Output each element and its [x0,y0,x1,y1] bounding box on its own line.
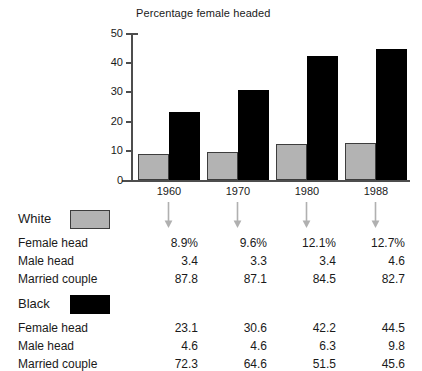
y-tick-40 [126,62,133,64]
y-tick-10 [126,150,133,152]
x-axis-label-1960: 1960 [139,185,199,197]
x-axis-label-1988: 1988 [346,185,406,197]
data-table: White Female head 8.9% 9.6% 12.1% 12.7% … [0,200,422,366]
row-label-white-married-couple: Married couple [18,273,97,286]
cell-black-married-couple-1980: 51.5 [278,358,336,371]
legend-swatch-white [70,210,110,229]
bar-black-1970[interactable] [238,90,269,180]
bar-white-1970[interactable] [207,152,238,180]
cell-black-male-head-1970: 4.6 [209,340,267,353]
chart-region: Percentage female headed 50 40 30 20 10 … [0,0,422,200]
cell-white-female-head-1980: 12.1% [278,237,336,250]
cell-black-female-head-1970: 30.6 [209,322,267,335]
cell-white-male-head-1960: 3.4 [140,255,198,268]
bar-white-1988[interactable] [345,143,376,180]
y-axis-label-20: 20 [99,116,123,127]
cell-white-male-head-1980: 3.4 [278,255,336,268]
y-tick-0 [126,180,133,182]
x-axis-label-1970: 1970 [208,185,268,197]
plot-area [133,33,410,180]
cell-white-married-couple-1980: 84.5 [278,273,336,286]
cell-black-female-head-1988: 44.5 [347,322,405,335]
x-axis-label-1980: 1980 [277,185,337,197]
cell-white-married-couple-1970: 87.1 [209,273,267,286]
cell-white-male-head-1988: 4.6 [347,255,405,268]
y-axis-label-40: 40 [99,57,123,68]
y-tick-30 [126,91,133,93]
row-label-white-female-head: Female head [18,237,88,250]
cell-black-married-couple-1970: 64.6 [209,358,267,371]
y-axis-label-0: 0 [99,175,123,186]
cell-black-male-head-1980: 6.3 [278,340,336,353]
bar-white-1980[interactable] [276,144,307,180]
cell-white-female-head-1970: 9.6% [209,237,267,250]
bar-black-1960[interactable] [169,112,200,180]
cell-white-male-head-1970: 3.3 [209,255,267,268]
y-tick-50 [126,33,133,35]
cell-white-female-head-1988: 12.7% [347,237,405,250]
bar-white-1960[interactable] [138,154,169,180]
cell-white-female-head-1960: 8.9% [140,237,198,250]
bar-black-1980[interactable] [307,56,338,180]
cell-black-married-couple-1960: 72.3 [140,358,198,371]
cell-black-male-head-1960: 4.6 [140,340,198,353]
cell-black-married-couple-1988: 45.6 [347,358,405,371]
row-label-black-married-couple: Married couple [18,358,97,371]
cell-white-married-couple-1988: 82.7 [347,273,405,286]
chart-title: Percentage female headed [136,7,271,19]
row-label-black-male-head: Male head [18,340,74,353]
row-label-white-male-head: Male head [18,255,74,268]
y-axis-label-10: 10 [99,145,123,156]
cell-white-married-couple-1960: 87.8 [140,273,198,286]
x-axis-line [122,180,410,182]
group-header-black: Black [18,297,50,311]
y-tick-20 [126,121,133,123]
cell-black-female-head-1960: 23.1 [140,322,198,335]
bar-black-1988[interactable] [376,49,407,180]
legend-swatch-black [70,295,110,314]
cell-black-female-head-1980: 42.2 [278,322,336,335]
y-axis-label-50: 50 [99,28,123,39]
y-axis-label-30: 30 [99,86,123,97]
cell-black-male-head-1988: 9.8 [347,340,405,353]
row-label-black-female-head: Female head [18,322,88,335]
group-header-white: White [18,212,51,226]
